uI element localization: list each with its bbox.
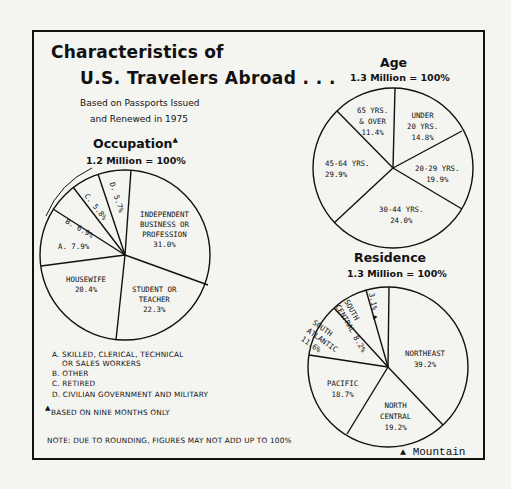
label-line: PROFESSION (140, 230, 189, 240)
label-line: 19.9% (415, 174, 460, 185)
legend-b: B. OTHER (52, 369, 89, 378)
slice-label-housewife: HOUSEWIFE 20.4% (66, 275, 106, 295)
slice-label-student: STUDENT OR TEACHER 22.3% (132, 285, 177, 315)
slice-label-independent: INDEPENDENT BUSINESS OR PROFESSION 31.0% (140, 210, 189, 250)
label-line: NORTH (380, 400, 411, 411)
label-line: 19.2% (380, 422, 411, 433)
label-line: 18.7% (327, 389, 358, 400)
label-line: BUSINESS OR (140, 220, 189, 230)
label-line: 31.0% (140, 240, 189, 250)
label-line: 65 YRS. (357, 105, 388, 116)
slice-label-a: A. 7.9% (58, 242, 89, 251)
triangle-icon: ▲ (400, 447, 406, 458)
legend-c: C. RETIRED (52, 379, 95, 388)
label-line: INDEPENDENT (140, 210, 189, 220)
slice-label-65-over: 65 YRS. & OVER 11.4% (357, 105, 388, 138)
label-line: 39.2% (405, 359, 445, 370)
footnote: BASED ON NINE MONTHS ONLY (51, 408, 170, 417)
slice-label-30-44: 30-44 YRS. 24.0% (379, 204, 424, 226)
slice-label-northeast: NORTHEAST 39.2% (405, 348, 445, 370)
label-line: 29.9% (325, 169, 370, 180)
label-line: NORTHEAST (405, 348, 445, 359)
label-line: PACIFIC (327, 378, 358, 389)
label-line: 22.3% (132, 305, 177, 315)
label-line: 20 YRS. (407, 121, 438, 132)
label-line: HOUSEWIFE (66, 275, 106, 285)
label-line: 24.0% (379, 215, 424, 226)
label-line: 11.4% (357, 127, 388, 138)
mountain-note: ▲ Mountain (400, 446, 465, 458)
rounding-note: NOTE: DUE TO ROUNDING, FIGURES MAY NOT A… (47, 436, 292, 445)
legend-a: A. SKILLED, CLERICAL, TECHNICAL (52, 350, 183, 359)
slice-label-pacific: PACIFIC 18.7% (327, 378, 358, 400)
label-line: & OVER (357, 116, 388, 127)
legend-d: D. CIVILIAN GOVERNMENT AND MILITARY (52, 390, 208, 399)
label-line: CENTRAL (380, 411, 411, 422)
label-line: 20.4% (66, 285, 106, 295)
slice-label-north-central: NORTH CENTRAL 19.2% (380, 400, 411, 433)
label-line: 20-29 YRS. (415, 163, 460, 174)
slice-label-45-64: 45-64 YRS. 29.9% (325, 158, 370, 180)
slice-label-20-29: 20-29 YRS. 19.9% (415, 163, 460, 185)
triangle-icon: ▲ (45, 404, 50, 412)
legend-a-cont: OR SALES WORKERS (52, 359, 141, 368)
label-line: 30-44 YRS. (379, 204, 424, 215)
slice-label-under-20: UNDER 20 YRS. 14.8% (407, 110, 438, 143)
mountain-note-text: Mountain (413, 446, 466, 458)
label-line: 45-64 YRS. (325, 158, 370, 169)
label-line: 14.8% (407, 132, 438, 143)
label-line: STUDENT OR (132, 285, 177, 295)
label-line: UNDER (407, 110, 438, 121)
label-line: TEACHER (132, 295, 177, 305)
